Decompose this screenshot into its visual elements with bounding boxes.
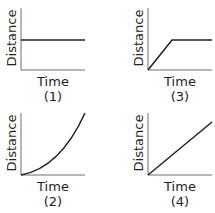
graph-number: (4) [145, 194, 215, 209]
distance-line [148, 40, 212, 70]
graph-number: (3) [145, 89, 215, 104]
graph-panel-3: Distance Time (3) [107, 0, 214, 106]
y-axis-label: Distance [4, 3, 20, 73]
graph-panel-1: Distance Time (1) [0, 0, 107, 106]
x-axis-label: Time [145, 74, 215, 89]
y-axis-label: Distance [4, 108, 20, 178]
graph-number: (1) [18, 89, 88, 104]
distance-line [148, 122, 212, 175]
graph-panel-4: Distance Time (4) [107, 106, 214, 212]
y-axis-label: Distance [131, 108, 147, 178]
graph-number: (2) [18, 194, 88, 209]
distance-curve [21, 113, 85, 175]
x-axis-label: Time [18, 179, 88, 194]
y-axis-label: Distance [131, 3, 147, 73]
x-axis-label: Time [145, 179, 215, 194]
graph-panel-2: Distance Time (2) [0, 106, 107, 212]
x-axis-label: Time [18, 74, 88, 89]
